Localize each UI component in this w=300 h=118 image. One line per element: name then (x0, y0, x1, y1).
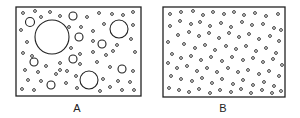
small-bubble (183, 43, 186, 46)
small-bubble (216, 71, 219, 74)
diagram-canvas (0, 0, 300, 118)
small-bubble (190, 55, 193, 58)
small-bubble (34, 10, 37, 13)
small-bubble (102, 78, 105, 81)
small-bubble (103, 23, 106, 26)
small-bubble (167, 41, 170, 44)
panel-b (163, 7, 285, 97)
large-bubble (26, 18, 35, 27)
large-bubble (118, 65, 126, 73)
small-bubble (208, 32, 211, 35)
small-bubble (21, 88, 24, 91)
small-bubble (179, 20, 182, 23)
small-bubble (130, 38, 133, 41)
small-bubble (92, 40, 95, 43)
small-bubble (223, 13, 226, 16)
small-bubble (248, 33, 251, 36)
small-bubble (247, 69, 250, 72)
small-bubble (55, 73, 58, 76)
small-bubble (199, 21, 202, 24)
small-bubble (180, 11, 183, 14)
small-bubble (169, 25, 172, 28)
small-bubble (275, 52, 278, 55)
small-bubble (169, 13, 172, 16)
small-bubble (265, 15, 268, 18)
small-bubble (209, 92, 212, 95)
small-bubble (242, 79, 245, 82)
small-bubble (278, 75, 281, 78)
small-bubble (122, 14, 125, 17)
small-bubble (281, 64, 284, 67)
small-bubble (196, 70, 199, 73)
small-bubble (178, 89, 181, 92)
small-bubble (198, 88, 201, 91)
small-bubble (194, 47, 197, 50)
small-bubble (177, 34, 180, 37)
small-bubble (269, 35, 272, 38)
small-bubble (218, 37, 221, 40)
small-bubble (86, 16, 89, 19)
small-bubble (59, 15, 62, 18)
small-bubble (68, 26, 71, 29)
small-bubble (273, 85, 276, 88)
small-bubble (238, 36, 241, 39)
small-bubble (191, 80, 194, 83)
small-bubble (180, 78, 183, 81)
large-bubble (30, 58, 38, 66)
small-bubble (45, 65, 48, 68)
large-bubble (35, 20, 69, 54)
small-bubble (245, 45, 248, 48)
small-bubble (37, 71, 40, 74)
small-bubble (221, 78, 224, 81)
panel-b-label: B (219, 102, 226, 114)
small-bubble (134, 51, 137, 54)
small-bubble (220, 22, 223, 25)
small-bubble (204, 44, 207, 47)
small-bubble (230, 91, 233, 94)
small-bubble (202, 14, 205, 17)
small-bubble (271, 92, 274, 95)
small-bubble (261, 89, 264, 92)
small-bubble (80, 26, 83, 29)
small-bubble (79, 53, 82, 56)
small-bubble (66, 70, 69, 73)
small-bubble (33, 89, 36, 92)
small-bubble (186, 65, 189, 68)
small-bubble (233, 11, 236, 14)
small-bubble (273, 27, 276, 30)
small-bubble (272, 58, 275, 61)
small-bubble (180, 57, 183, 60)
small-bubble (278, 40, 281, 43)
small-bubble (26, 41, 29, 44)
small-bubble (22, 12, 25, 15)
small-bubble (98, 12, 101, 15)
small-bubble (24, 69, 27, 72)
small-bubble (168, 87, 171, 90)
small-bubble (170, 75, 173, 78)
small-bubble (227, 67, 230, 70)
small-bubble (27, 79, 30, 82)
small-bubble (201, 77, 204, 80)
panel-a-label: A (73, 102, 80, 114)
small-bubble (40, 16, 43, 19)
small-bubble (240, 88, 243, 91)
small-bubble (235, 48, 238, 51)
panel-a (16, 7, 141, 96)
large-bubble (80, 71, 98, 89)
small-bubble (59, 62, 62, 65)
large-bubble (98, 40, 106, 48)
small-bubble (211, 82, 214, 85)
small-bubble (133, 89, 136, 92)
small-bubble (132, 70, 135, 73)
small-bubble (221, 60, 224, 63)
small-bubble (109, 66, 112, 69)
small-bubble (255, 50, 258, 53)
small-bubble (167, 62, 170, 65)
small-bubble (250, 92, 253, 95)
small-bubble (70, 47, 73, 50)
small-bubble (49, 11, 52, 14)
small-bubble (262, 23, 265, 26)
small-bubble (225, 45, 228, 48)
small-bubble (76, 87, 79, 90)
small-bubble (176, 67, 179, 70)
